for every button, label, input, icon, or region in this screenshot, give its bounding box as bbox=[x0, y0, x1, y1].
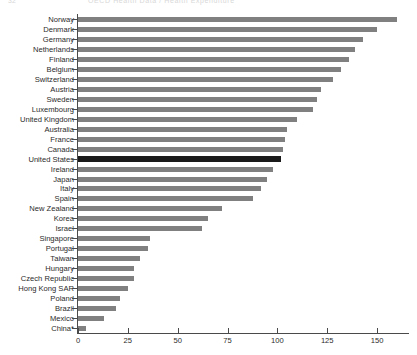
y-axis-tick bbox=[72, 248, 77, 249]
bar bbox=[78, 67, 341, 72]
x-axis-tick bbox=[377, 328, 378, 333]
x-axis-tick-label: 150 bbox=[357, 336, 397, 345]
bar bbox=[78, 276, 134, 281]
y-axis-tick bbox=[72, 99, 77, 100]
y-axis-tick bbox=[72, 79, 77, 80]
bar bbox=[78, 97, 317, 102]
bar bbox=[78, 216, 208, 221]
bar bbox=[78, 186, 261, 191]
y-axis-tick bbox=[72, 268, 77, 269]
y-axis-tick bbox=[72, 139, 77, 140]
bar bbox=[78, 27, 377, 32]
bar bbox=[78, 57, 349, 62]
x-axis-tick-label: 125 bbox=[307, 336, 347, 345]
bar bbox=[78, 127, 287, 132]
bar bbox=[78, 77, 333, 82]
y-axis-tick bbox=[72, 29, 77, 30]
y-axis-tick bbox=[72, 258, 77, 259]
bar-row-label: China* bbox=[0, 323, 74, 335]
bar bbox=[78, 117, 297, 122]
y-axis-tick bbox=[72, 149, 77, 150]
y-axis-tick bbox=[72, 318, 77, 319]
y-axis-tick bbox=[72, 198, 77, 199]
y-axis-tick bbox=[72, 238, 77, 239]
y-axis-tick bbox=[72, 308, 77, 309]
bar bbox=[78, 196, 253, 201]
y-axis-tick bbox=[72, 179, 77, 180]
x-axis-tick-label: 75 bbox=[208, 336, 248, 345]
bar bbox=[78, 256, 140, 261]
bar bbox=[78, 316, 104, 321]
y-axis-tick bbox=[72, 228, 77, 229]
x-axis-tick bbox=[228, 328, 229, 333]
x-axis-tick bbox=[78, 328, 79, 333]
y-axis-tick bbox=[72, 59, 77, 60]
bar bbox=[78, 107, 313, 112]
y-axis-tick bbox=[72, 208, 77, 209]
y-axis-tick bbox=[72, 188, 77, 189]
bar bbox=[78, 47, 355, 52]
y-axis-tick bbox=[72, 298, 77, 299]
y-axis-tick bbox=[72, 328, 77, 329]
bar bbox=[78, 246, 148, 251]
bar bbox=[78, 326, 86, 331]
x-axis-tick bbox=[178, 328, 179, 333]
x-axis-tick-label: 0 bbox=[58, 336, 98, 345]
bar bbox=[78, 286, 128, 291]
y-axis-tick bbox=[72, 169, 77, 170]
y-axis-tick bbox=[72, 159, 77, 160]
bar bbox=[78, 17, 397, 22]
y-axis-tick bbox=[72, 119, 77, 120]
y-axis-tick bbox=[72, 89, 77, 90]
bar bbox=[78, 306, 116, 311]
x-axis-tick-label: 25 bbox=[108, 336, 148, 345]
bar bbox=[78, 137, 285, 142]
bar bbox=[78, 236, 150, 241]
bar bbox=[78, 226, 202, 231]
plot-area: NorwayDenmarkGermanyNetherlandsFinlandBe… bbox=[0, 0, 417, 355]
bar bbox=[78, 266, 134, 271]
bar bbox=[78, 206, 222, 211]
y-axis-tick bbox=[72, 278, 77, 279]
y-axis-tick bbox=[72, 19, 77, 20]
y-axis-tick bbox=[72, 218, 77, 219]
bar bbox=[78, 147, 283, 152]
x-axis-tick bbox=[128, 328, 129, 333]
y-axis-tick bbox=[72, 109, 77, 110]
y-axis-tick bbox=[72, 129, 77, 130]
bar bbox=[78, 296, 120, 301]
bar bbox=[78, 177, 267, 182]
x-axis-tick-label: 100 bbox=[257, 336, 297, 345]
y-axis-tick bbox=[72, 69, 77, 70]
x-axis-tick bbox=[327, 328, 328, 333]
x-axis-tick bbox=[277, 328, 278, 333]
y-axis-tick bbox=[72, 49, 77, 50]
bar bbox=[78, 167, 273, 172]
x-axis-tick-label: 50 bbox=[158, 336, 198, 345]
bar-row: China* bbox=[0, 323, 417, 335]
bar bbox=[78, 37, 363, 42]
bar-chart: 32 OECD Health Data / Health Expenditure… bbox=[0, 0, 417, 355]
bar bbox=[78, 87, 321, 92]
bar bbox=[78, 156, 281, 162]
y-axis-tick bbox=[72, 39, 77, 40]
y-axis-tick bbox=[72, 288, 77, 289]
